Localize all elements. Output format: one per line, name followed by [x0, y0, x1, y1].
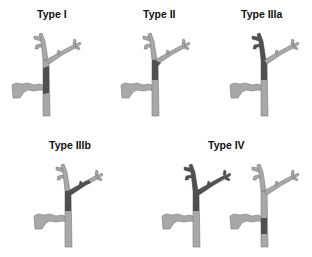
- panel-title: Type IV: [208, 139, 245, 151]
- biliary-tree-diagram: [121, 30, 201, 125]
- panel-type-1: Type I: [0, 0, 110, 125]
- biliary-tree-diagram: [230, 30, 310, 125]
- stricture-region: [152, 60, 161, 80]
- biliary-tree-diagram: [34, 161, 114, 256]
- panel-type-4: Type IV: [150, 130, 312, 257]
- biliary-tree-diagram: [12, 30, 92, 125]
- panel-title: Type II: [143, 8, 175, 20]
- panel-title: Type I: [37, 8, 67, 20]
- stricture-region: [43, 66, 49, 94]
- panel-title: Type IIIb: [49, 139, 91, 151]
- biliary-tree-diagram-b: [230, 161, 310, 256]
- panel-type-3b: Type IIIb: [0, 130, 150, 257]
- stricture-region: [261, 218, 267, 234]
- panel-type-3a: Type IIIa: [205, 0, 312, 125]
- panel-type-2: Type II: [100, 0, 210, 125]
- panel-title: Type IIIa: [241, 8, 282, 20]
